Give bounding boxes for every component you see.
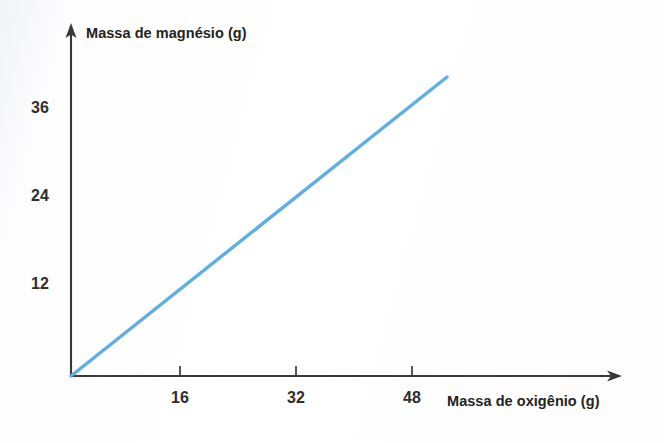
y-tick-label-24: 24 — [31, 187, 49, 205]
y-tick-label-36: 36 — [31, 99, 49, 117]
x-tick-label-32: 32 — [287, 389, 305, 407]
data-line-series-1 — [71, 77, 447, 376]
x-axis-title: Massa de oxigênio (g) — [447, 393, 600, 409]
y-axis-title: Massa de magnésio (g) — [86, 25, 247, 41]
x-tick-label-48: 48 — [403, 389, 421, 407]
y-tick-label-12: 12 — [31, 275, 49, 293]
x-tick-label-16: 16 — [171, 389, 189, 407]
chart-plot — [0, 0, 664, 443]
figure-canvas: Massa de magnésio (g) Massa de oxigênio … — [0, 0, 664, 443]
